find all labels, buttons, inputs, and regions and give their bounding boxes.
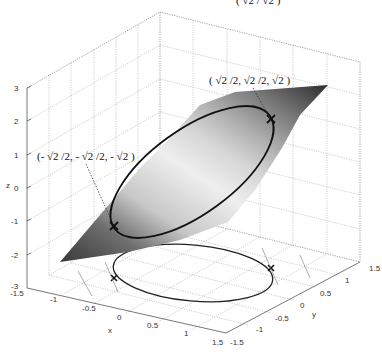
svg-text:-0.5: -0.5	[275, 314, 289, 323]
y-tick-labels: -1.5 -1 -0.5 0 0.5 1 1.5	[230, 264, 381, 347]
x-axis-label: x	[108, 326, 112, 335]
annot-min-label: (- √2 /2, - √2 /2, - √2 )	[37, 150, 135, 163]
svg-text:1: 1	[345, 276, 350, 285]
svg-text:-1.5: -1.5	[230, 338, 244, 347]
z-axis-label: z	[6, 181, 10, 190]
svg-text:-1: -1	[256, 325, 264, 334]
svg-text:1: 1	[184, 329, 189, 338]
y-axis-label: y	[312, 310, 316, 319]
svg-text:-1.5: -1.5	[10, 289, 24, 298]
svg-text:-0.5: -0.5	[82, 304, 96, 313]
svg-text:-1: -1	[50, 295, 58, 304]
z-axis-ticks	[27, 86, 31, 255]
svg-text:1: 1	[14, 151, 19, 160]
svg-text:-2: -2	[11, 251, 19, 260]
svg-text:1.5: 1.5	[369, 264, 381, 273]
svg-text:-1: -1	[11, 217, 19, 226]
svg-text:3: 3	[14, 84, 19, 93]
svg-text:0: 0	[14, 184, 19, 193]
cropped-top-label: ( √2 / √2 )	[236, 0, 281, 7]
svg-text:0: 0	[300, 301, 305, 310]
svg-text:0.5: 0.5	[320, 289, 332, 298]
svg-text:1.5: 1.5	[212, 338, 224, 347]
annot-max-label: ( √2 /2, √2 /2, √2 )	[209, 74, 290, 87]
z-tick-labels: 3 2 1 0 -1 -2 -3	[11, 84, 19, 291]
x-tick-labels: -1.5 -1 -0.5 0 0.5 1 1.5	[10, 289, 224, 347]
plane-surface	[60, 85, 328, 262]
svg-text:0.5: 0.5	[147, 321, 159, 330]
surface-plot-3d: ( √2 / √2 )	[0, 0, 382, 357]
svg-text:2: 2	[14, 117, 19, 126]
svg-text:0: 0	[117, 313, 122, 322]
floor-marker-max	[268, 265, 274, 271]
